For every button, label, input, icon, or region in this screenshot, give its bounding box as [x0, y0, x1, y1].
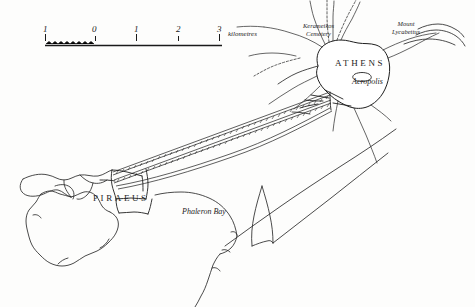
- label-kerameikos-line-1: Kerameikos: [303, 22, 334, 30]
- scale-tick-label-0: 1: [43, 24, 48, 34]
- scale-tick-label-3: 2: [176, 24, 181, 34]
- label-mount-lycabettus: Mount Lycabettus: [392, 20, 420, 35]
- label-athens: ATHENS: [335, 58, 385, 68]
- scale-tick-label-1: 0: [92, 24, 97, 34]
- scale-tick-label-4: 3: [217, 24, 222, 34]
- scale-unit-label: kilometres: [228, 30, 257, 38]
- label-lycabettus-line-1: Mount: [392, 20, 420, 28]
- label-kerameikos-cemetery: Kerameikos Cemetery: [303, 22, 334, 37]
- label-acropolis: Acropolis: [352, 77, 383, 86]
- label-phaleron-bay: Phaleron Bay: [182, 207, 226, 216]
- scale-bar-hatching: [46, 42, 94, 44]
- map-canvas: [0, 0, 475, 307]
- ancient-athens-map: 1 0 1 2 3 kilometres ATHENS Acropolis PI…: [0, 0, 475, 307]
- scale-tick-label-2: 1: [134, 24, 139, 34]
- label-lycabettus-line-2: Lycabettus: [392, 28, 420, 36]
- label-piraeus: PIRAEUS: [93, 193, 149, 203]
- long-walls: [113, 92, 332, 189]
- piraeus-peninsula-coastline: [20, 170, 118, 266]
- label-kerameikos-line-2: Cemetery: [303, 30, 334, 38]
- scale-bar: [45, 34, 222, 46]
